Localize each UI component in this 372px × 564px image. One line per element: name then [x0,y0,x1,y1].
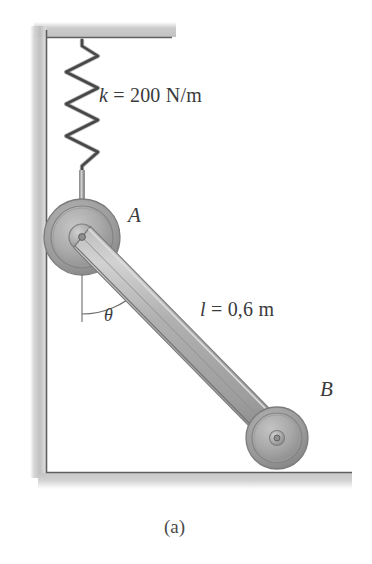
pin-b [274,435,280,441]
bar-bottom-shadow [75,246,272,447]
physics-figure: k = 200 N/m l = 0,6 m θ A B (a) [0,0,372,564]
pin-a [79,234,86,241]
spring-stiffness-value: 200 N/m [130,84,202,106]
spring-stiffness-symbol: k [99,84,108,106]
spring-stiffness-equals: = [108,84,130,106]
coil-spring [66,40,98,172]
bar-length-value: 0,6 m [228,298,275,320]
ceiling-hatch-band [34,22,176,37]
bar-length-equals: = [206,298,228,320]
point-b-label: B [320,377,333,402]
point-a-label: A [128,203,141,228]
bar-length-label: l = 0,6 m [200,298,274,321]
ceiling-support [34,22,176,38]
spring-coil-path [66,40,98,172]
figure-caption: (a) [164,516,185,538]
floor-hatch-band [38,473,352,489]
floor-support [38,473,352,490]
spring-stiffness-label: k = 200 N/m [99,84,202,107]
wall-support [30,26,47,478]
angle-label: θ [104,305,113,326]
bar-seam-line [82,237,280,438]
bar-top-highlight [89,229,287,430]
wall-hatch-band [30,26,46,478]
